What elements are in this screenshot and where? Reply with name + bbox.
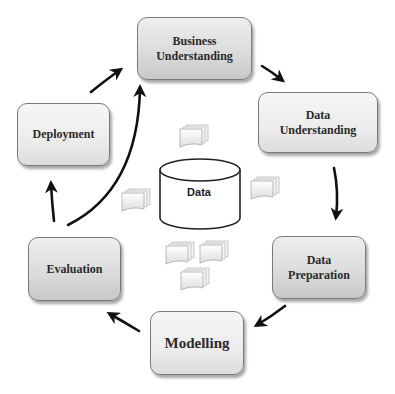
arrow-understanding-to-preparation — [334, 168, 337, 217]
arrow-business-to-understanding — [262, 66, 282, 80]
stage-business-understanding: Business Understanding — [137, 17, 252, 80]
stage-modelling: Modelling — [150, 311, 244, 375]
document-stack-icon — [200, 241, 228, 263]
stage-evaluation: Evaluation — [28, 237, 121, 301]
arrow-modelling-to-evaluation — [110, 314, 139, 331]
stage-deployment: Deployment — [17, 103, 110, 166]
document-stack-icon — [180, 125, 208, 147]
crisp-dm-diagram: Data Business Understanding Data Underst… — [0, 0, 395, 394]
data-store-label: Data — [158, 186, 240, 198]
arrow-preparation-to-modelling — [257, 306, 285, 325]
document-stack-icon — [251, 177, 279, 199]
stage-data-preparation: Data Preparation — [272, 236, 366, 299]
arrow-deployment-to-business — [91, 70, 120, 92]
document-stack-icon — [166, 242, 194, 264]
document-stack-icon — [181, 268, 209, 290]
arrow-evaluation-to-deployment — [51, 184, 54, 221]
document-stack-icon — [122, 189, 150, 211]
stage-data-understanding: Data Understanding — [258, 92, 378, 153]
